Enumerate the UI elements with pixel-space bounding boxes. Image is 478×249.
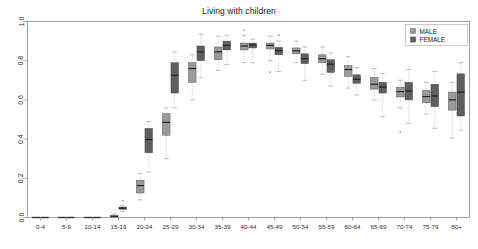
- box-female: [379, 73, 387, 116]
- box-body: [162, 114, 170, 136]
- plot-frame: [28, 22, 470, 218]
- box-group: [318, 47, 334, 86]
- plot-border: [28, 22, 470, 218]
- box-female: [353, 68, 361, 95]
- box-female: [171, 52, 179, 108]
- legend[interactable]: MALEFEMALE: [406, 25, 468, 46]
- box-male: [136, 173, 144, 199]
- box-female: [431, 71, 439, 128]
- x-tick-label: 30-34: [189, 223, 205, 230]
- box-male: [32, 217, 40, 218]
- x-tick-label: 50-54: [293, 223, 309, 230]
- box-male: [188, 55, 196, 100]
- y-tick-label: 0.0: [18, 213, 25, 223]
- box-group: [422, 71, 438, 128]
- box-group: [344, 57, 360, 95]
- plot-canvas: 0.00.20.40.60.81.00-45-910-1415-1920-242…: [0, 0, 478, 249]
- box-male: [240, 29, 248, 62]
- box-group: [188, 34, 204, 100]
- box-male: [292, 41, 300, 63]
- legend-item[interactable]: MALE: [411, 28, 437, 35]
- x-tick-label: 0-4: [36, 223, 46, 230]
- box-group: [136, 121, 152, 199]
- x-tick-label: 65-69: [371, 223, 387, 230]
- box-female: [327, 53, 335, 86]
- box-body: [145, 128, 153, 153]
- box-group: [448, 63, 464, 138]
- outlier-point: [243, 29, 245, 31]
- box-body: [214, 47, 222, 60]
- box-body: [448, 92, 456, 110]
- box-female: [457, 63, 465, 131]
- box-group: [370, 69, 386, 117]
- x-tick-label: 40-44: [241, 223, 257, 230]
- box-male: [266, 36, 274, 73]
- y-tick-label: 0.8: [18, 56, 25, 66]
- box-female: [119, 200, 127, 212]
- y-tick-label: 1.0: [18, 17, 25, 27]
- box-male: [214, 36, 222, 70]
- legend-label: FEMALE: [420, 36, 446, 43]
- box-female: [223, 35, 231, 64]
- box-body: [188, 63, 196, 83]
- outlier-point: [278, 34, 280, 36]
- legend-label: MALE: [420, 28, 437, 35]
- box-female: [67, 217, 75, 218]
- box-female: [301, 47, 309, 80]
- box-female: [275, 34, 283, 71]
- box-body: [275, 47, 283, 54]
- x-tick-label: 70-74: [397, 223, 413, 230]
- box-male: [370, 69, 378, 100]
- box-male: [318, 47, 326, 74]
- x-tick-label: 75-79: [423, 223, 439, 230]
- box-male: [162, 108, 170, 159]
- box-male: [396, 80, 404, 132]
- y-tick-label: 0.4: [18, 134, 25, 144]
- box-group: [292, 41, 308, 80]
- box-body: [266, 43, 274, 49]
- box-group: [214, 35, 230, 70]
- x-tick-label: 25-29: [163, 223, 179, 230]
- y-tick-label: 0.6: [18, 95, 25, 105]
- x-tick-label: 5-9: [62, 223, 72, 230]
- boxplot-chart: Living with children 0.00.20.40.60.81.00…: [0, 0, 478, 249]
- x-tick-label: 60-64: [345, 223, 361, 230]
- box-male: [344, 57, 352, 88]
- box-male: [448, 82, 456, 138]
- box-body: [197, 46, 205, 61]
- box-body: [370, 77, 378, 89]
- box-group: [110, 200, 126, 218]
- box-body: [457, 74, 465, 116]
- box-group: [240, 29, 256, 62]
- outlier-point: [399, 131, 401, 133]
- box-male: [58, 217, 66, 218]
- y-tick-label: 0.2: [18, 173, 25, 183]
- box-body: [344, 66, 352, 77]
- box-group: [162, 52, 178, 159]
- legend-item[interactable]: FEMALE: [411, 36, 446, 43]
- box-male: [422, 82, 430, 114]
- x-tick-label: 35-39: [215, 223, 231, 230]
- x-tick-label: 55-59: [319, 223, 335, 230]
- box-female: [405, 70, 413, 124]
- legend-swatch: [411, 37, 416, 42]
- box-female: [249, 39, 257, 63]
- box-female: [93, 217, 101, 218]
- x-tick-label: 80+: [451, 223, 462, 230]
- box-female: [197, 34, 205, 77]
- x-tick-label: 10-14: [85, 223, 101, 230]
- x-tick-label: 15-19: [111, 223, 127, 230]
- box-female: [41, 217, 49, 218]
- box-male: [84, 217, 92, 218]
- box-male: [110, 214, 118, 217]
- box-group: [396, 70, 412, 133]
- x-axis: 0-45-910-1415-1920-2425-2930-3435-3940-4…: [36, 218, 462, 231]
- boxes-layer: [32, 29, 464, 218]
- x-tick-label: 20-24: [137, 223, 153, 230]
- outlier-point: [269, 71, 271, 73]
- box-group: [266, 34, 282, 73]
- box-body: [327, 60, 335, 73]
- box-female: [145, 121, 153, 172]
- box-body: [136, 180, 144, 193]
- legend-swatch: [411, 28, 416, 33]
